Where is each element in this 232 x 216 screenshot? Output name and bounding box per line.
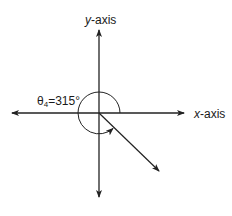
angle-value: 315° bbox=[55, 94, 80, 108]
x-axis-suffix: -axis bbox=[200, 107, 225, 121]
theta-symbol: θ bbox=[37, 94, 44, 108]
x-axis-label: x-axis bbox=[194, 108, 225, 120]
y-axis-label: y-axis bbox=[85, 14, 116, 26]
angle-label: θ4=315° bbox=[37, 95, 80, 109]
y-axis-suffix: -axis bbox=[91, 13, 116, 27]
terminal-ray bbox=[99, 113, 159, 171]
